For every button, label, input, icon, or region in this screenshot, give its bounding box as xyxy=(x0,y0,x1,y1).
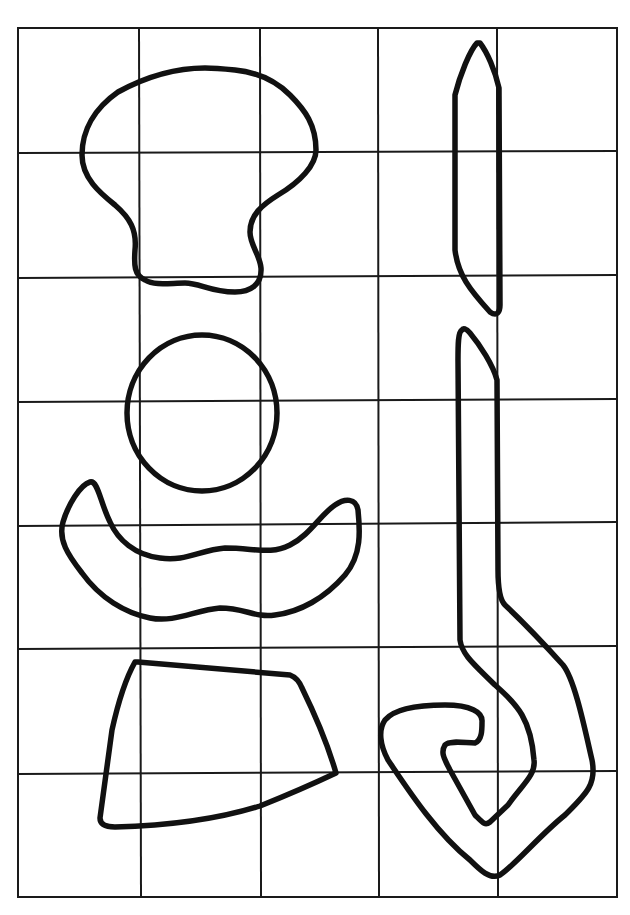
trapezoid-shape xyxy=(100,662,336,827)
grid-vline xyxy=(378,28,379,897)
grid-hline xyxy=(18,399,617,402)
circle-shape xyxy=(127,335,277,491)
grid-drawing xyxy=(0,0,630,915)
blade-shape xyxy=(455,43,500,314)
hook-shape xyxy=(381,329,593,877)
crescent-shape xyxy=(62,482,360,619)
grid-hline xyxy=(18,646,617,649)
mushroom-shape xyxy=(82,68,316,292)
grid-hline xyxy=(18,275,617,278)
